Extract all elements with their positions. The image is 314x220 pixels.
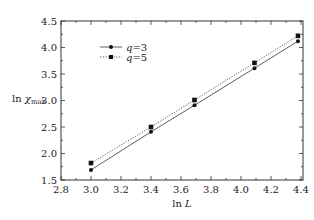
y-tick-label: 4.0 <box>41 42 57 53</box>
circle-marker-icon <box>296 39 300 43</box>
square-marker-icon <box>296 34 301 39</box>
y-tick-label: 3.5 <box>41 69 57 80</box>
square-marker-icon <box>192 98 197 103</box>
circle-marker-icon <box>253 66 257 70</box>
square-marker-icon <box>149 125 154 130</box>
square-marker-icon <box>109 55 113 59</box>
data-series <box>89 34 301 172</box>
x-tick-label: 3.0 <box>83 184 99 195</box>
plot-border <box>61 21 303 180</box>
x-tick-label: 3.4 <box>143 184 159 195</box>
series-q5 <box>89 34 301 166</box>
x-tick-label: 4.2 <box>263 184 279 195</box>
y-tick-label: 1.5 <box>41 175 57 186</box>
x-tick-label: 2.8 <box>53 184 69 195</box>
circle-marker-icon <box>89 168 93 172</box>
series-q3 <box>89 39 300 172</box>
plot-frame <box>61 21 303 180</box>
y-tick-label: 2.5 <box>41 122 57 133</box>
square-marker-icon <box>252 61 257 66</box>
x-tick-label: 3.2 <box>113 184 129 195</box>
circle-marker-icon <box>149 130 153 134</box>
y-tick-label: 2.0 <box>41 148 57 159</box>
circle-marker-icon <box>109 45 113 49</box>
x-axis-label: ln L <box>172 198 192 209</box>
x-tick-label: 4.4 <box>293 184 309 195</box>
y-tick-label: 4.5 <box>41 16 57 27</box>
x-tick-label: 4.0 <box>233 184 249 195</box>
legend-item-q5: q=5 <box>100 52 147 63</box>
square-marker-icon <box>89 161 94 166</box>
legend-label-q5: q=5 <box>126 52 147 63</box>
circle-marker-icon <box>193 103 197 107</box>
x-tick-label: 3.8 <box>203 184 219 195</box>
chart: 2.83.03.23.43.63.84.04.24.4 1.52.02.53.0… <box>0 0 314 220</box>
legend: q=3 q=5 <box>100 42 147 63</box>
x-tick-label: 3.6 <box>173 184 189 195</box>
y-axis-ticks: 1.52.02.53.03.54.04.5 <box>41 16 303 186</box>
